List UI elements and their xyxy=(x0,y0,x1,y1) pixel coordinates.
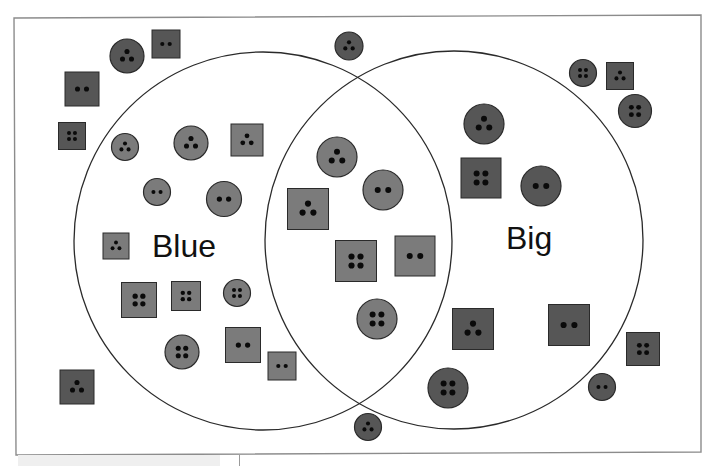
hole-icon xyxy=(300,210,306,216)
venn-item-circle xyxy=(165,335,199,369)
hole-icon xyxy=(476,125,482,131)
hole-icon xyxy=(385,187,391,193)
hole-icon xyxy=(637,343,642,348)
hole-icon xyxy=(449,381,455,387)
hole-icon xyxy=(465,330,471,336)
hole-icon xyxy=(159,190,163,194)
hole-icon xyxy=(629,112,634,117)
hole-icon xyxy=(184,143,189,148)
hole-icon xyxy=(644,343,649,348)
venn-item-square xyxy=(549,305,590,346)
venn-item-circle xyxy=(521,166,561,206)
hole-icon xyxy=(176,353,181,358)
hole-icon xyxy=(193,143,198,148)
hole-icon xyxy=(140,294,145,299)
venn-item-square xyxy=(65,72,99,106)
hole-icon xyxy=(334,149,340,155)
venn-item-circle xyxy=(619,95,652,128)
hole-icon xyxy=(375,187,381,193)
venn-item-circle xyxy=(144,179,171,206)
venn-item-circle xyxy=(355,414,382,441)
venn-item-circle xyxy=(363,170,403,210)
hole-icon xyxy=(232,288,236,292)
venn-item-square xyxy=(627,333,660,366)
venn-item-circle xyxy=(357,299,397,339)
venn-item-circle xyxy=(174,126,208,160)
venn-item-square xyxy=(395,236,435,276)
hole-icon xyxy=(176,346,181,351)
hole-icon xyxy=(73,131,77,135)
hole-icon xyxy=(339,158,345,164)
hole-icon xyxy=(310,210,316,216)
venn-item-circle xyxy=(589,374,616,401)
hole-icon xyxy=(474,171,480,177)
venn-item-square xyxy=(231,124,263,156)
hole-icon xyxy=(188,136,193,141)
hole-icon xyxy=(127,147,131,151)
venn-item-circle xyxy=(110,39,144,73)
hole-icon xyxy=(183,353,188,358)
hole-icon xyxy=(378,320,384,326)
venn-item-square xyxy=(103,233,129,259)
hole-icon xyxy=(238,288,242,292)
set-label-big: Big xyxy=(506,222,552,254)
hole-icon xyxy=(378,312,384,318)
hole-icon xyxy=(67,137,71,141)
hole-icon xyxy=(187,297,191,301)
hole-icon xyxy=(470,321,476,327)
hole-icon xyxy=(74,380,79,385)
venn-item-square xyxy=(607,63,634,90)
venn-item-square xyxy=(453,309,494,350)
hole-icon xyxy=(168,42,172,46)
venn-item-square xyxy=(288,189,329,230)
hole-icon xyxy=(622,76,626,80)
hole-icon xyxy=(151,190,155,194)
hole-icon xyxy=(183,346,188,351)
hole-icon xyxy=(543,183,549,189)
hole-icon xyxy=(114,241,118,245)
venn-item-circle xyxy=(207,182,242,217)
hole-icon xyxy=(370,312,376,318)
venn-item-square xyxy=(60,370,94,404)
hole-icon xyxy=(329,158,335,164)
bottom-panel-strip xyxy=(18,455,220,466)
hole-icon xyxy=(486,125,492,131)
hole-icon xyxy=(357,262,363,268)
hole-icon xyxy=(441,381,447,387)
hole-icon xyxy=(240,140,245,145)
hole-icon xyxy=(584,74,588,78)
hole-icon xyxy=(596,385,600,389)
hole-icon xyxy=(343,46,347,50)
hole-icon xyxy=(238,294,242,298)
hole-icon xyxy=(133,294,138,299)
hole-icon xyxy=(578,68,582,72)
hole-icon xyxy=(482,179,488,185)
hole-icon xyxy=(232,294,236,298)
venn-item-circle xyxy=(317,137,357,177)
hole-icon xyxy=(181,291,185,295)
hole-icon xyxy=(140,301,145,306)
venn-item-square xyxy=(152,30,180,58)
venn-item-circle xyxy=(112,134,139,161)
bottom-divider xyxy=(239,455,240,466)
venn-item-square xyxy=(336,241,377,282)
hole-icon xyxy=(226,196,231,201)
hole-icon xyxy=(474,179,480,185)
hole-icon xyxy=(187,291,191,295)
venn-canvas xyxy=(0,0,720,466)
hole-icon xyxy=(123,141,127,145)
hole-icon xyxy=(111,246,115,250)
hole-icon xyxy=(475,330,481,336)
hole-icon xyxy=(119,147,123,151)
hole-icon xyxy=(481,116,487,122)
venn-item-square xyxy=(172,282,201,311)
hole-icon xyxy=(366,421,370,425)
hole-icon xyxy=(362,427,366,431)
hole-icon xyxy=(117,246,121,250)
hole-icon xyxy=(449,389,455,395)
hole-icon xyxy=(236,342,241,347)
hole-icon xyxy=(348,253,354,259)
venn-item-circle xyxy=(464,104,504,144)
hole-icon xyxy=(636,112,641,117)
hole-icon xyxy=(245,133,250,138)
